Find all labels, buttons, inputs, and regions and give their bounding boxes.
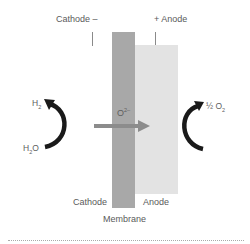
h2o-reactant-label: H2O xyxy=(23,143,39,155)
anode-top-label: + Anode xyxy=(154,14,187,24)
cathode-top-label: Cathode – xyxy=(56,14,98,24)
curved-arrow-right-icon xyxy=(180,98,210,154)
ion-flow-arrow-icon xyxy=(94,120,154,132)
anode-lead-line xyxy=(155,32,156,46)
cathode-bottom-label: Cathode xyxy=(73,197,107,207)
oxide-ion-label: O2– xyxy=(117,107,130,118)
membrane-bottom-label: Membrane xyxy=(103,214,146,224)
cathode-lead-line xyxy=(92,32,93,46)
anode-bottom-label: Anode xyxy=(143,197,169,207)
curved-arrow-left-icon xyxy=(40,96,70,152)
dotted-divider xyxy=(8,240,244,241)
